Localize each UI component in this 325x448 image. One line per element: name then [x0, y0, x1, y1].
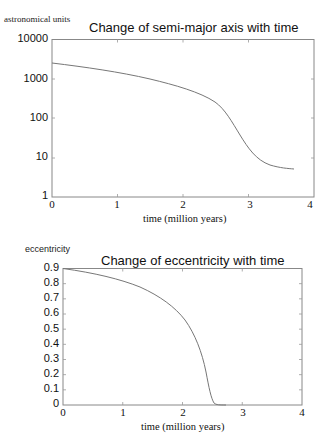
- x-tick-label: 4: [294, 406, 310, 418]
- eccentricity-line: [63, 269, 226, 406]
- plot-frame: [63, 269, 302, 406]
- y-tick-label: 0.9: [19, 261, 59, 273]
- y-tick-label: 0.3: [19, 352, 59, 364]
- semi-major-axis-line: [52, 63, 294, 169]
- plot-frame: [52, 40, 314, 198]
- x-tick-label: 1: [115, 406, 131, 418]
- y-tick-label: 0.1: [19, 382, 59, 394]
- tick-marks: [52, 40, 314, 198]
- y-tick-label: 0: [19, 397, 59, 409]
- x-axis-label: time (million years): [141, 421, 224, 432]
- plot-canvas: [0, 0, 325, 448]
- y-tick-label: 0.4: [19, 337, 59, 349]
- y-tick-label: 0.7: [19, 291, 59, 303]
- y-tick-label: 0.5: [19, 322, 59, 334]
- tick-marks: [123, 269, 243, 406]
- x-tick-label: 2: [175, 406, 191, 418]
- y-tick-label: 0.6: [19, 306, 59, 318]
- x-tick-label: 3: [235, 406, 251, 418]
- x-tick-label: 0: [55, 406, 71, 418]
- y-tick-label: 0.2: [19, 367, 59, 379]
- y-tick-label: 0.8: [19, 276, 59, 288]
